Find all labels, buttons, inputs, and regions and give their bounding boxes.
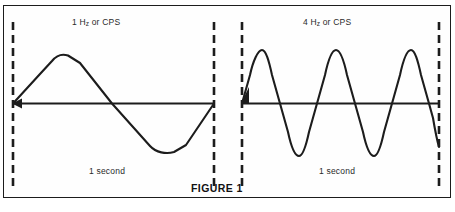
figure-container: 1 Hz or CPS 4 Hz or CPS 1 second 1 secon…: [0, 0, 455, 212]
left-panel-frequency-label: 1 Hz or CPS: [72, 18, 120, 28]
left-panel-time-label: 1 second: [89, 167, 125, 176]
right-frequency-alt: or CPS: [323, 17, 352, 27]
right-frequency-subscript: z: [317, 20, 320, 27]
waveform-plot: [0, 0, 455, 212]
right-panel-frequency-label: 4 Hz or CPS: [303, 18, 351, 28]
right-panel-time-label: 1 second: [319, 167, 355, 176]
left-frequency-alt: or CPS: [92, 17, 121, 27]
left-frequency-value: 1: [72, 17, 77, 27]
left-frequency-subscript: z: [86, 20, 89, 27]
figure-caption: FIGURE 1: [191, 183, 243, 194]
right-frequency-value: 4: [303, 17, 308, 27]
